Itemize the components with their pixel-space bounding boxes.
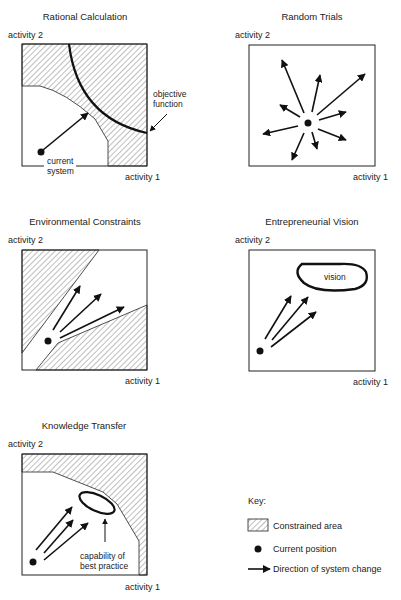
direction-arrow [312,132,317,149]
panel-rational-calculation: Rational Calculation activity 2 current … [8,11,187,182]
x-axis-label: activity 1 [353,377,388,387]
direction-arrow [318,129,346,140]
direction-arrow [60,294,101,332]
best-practice-label: capability of [80,551,126,561]
panel-frame [249,250,375,371]
legend-label-constrained: Constrained area [273,521,342,531]
current-system-label: current [47,156,74,166]
panel-title: Knowledge Transfer [42,420,127,431]
objective-function-label: objective [153,89,187,99]
vision-label: vision [324,272,346,282]
current-position-dot [38,149,45,156]
direction-arrow [43,113,88,150]
y-axis-label: activity 2 [235,235,270,245]
panel-entrepreneurial-vision: Entrepreneurial Vision activity 2 vision… [235,216,388,387]
direction-arrow [280,105,300,117]
pointer-arrow [150,114,167,131]
constrained-area [22,44,147,166]
objective-function-label-2: function [153,99,183,109]
random-arrows [263,60,365,160]
panel-title: Entrepreneurial Vision [265,216,358,227]
legend-hatched-swatch [248,519,268,531]
panel-title: Rational Calculation [43,11,128,22]
panel-frame [249,45,375,166]
current-position-dot [30,559,37,566]
direction-arrow [312,75,320,112]
legend-title: Key: [248,496,266,506]
legend-dot-swatch [255,546,262,553]
x-axis-label: activity 1 [125,172,160,182]
panel-title: Random Trials [281,11,342,22]
x-axis-label: activity 1 [125,376,160,386]
direction-arrow [282,60,304,113]
panel-title: Environmental Constraints [29,216,141,227]
current-position-dot [45,338,52,345]
y-axis-label: activity 2 [8,30,43,40]
legend-label-direction: Direction of system change [273,564,382,574]
diagram-canvas: Rational Calculation activity 2 current … [0,0,401,600]
direction-arrow [263,126,298,134]
x-axis-label: activity 1 [125,582,160,592]
current-position-dot [305,120,312,127]
x-axis-label: activity 1 [353,172,388,182]
y-axis-label: activity 2 [235,30,270,40]
y-axis-label: activity 2 [8,439,43,449]
current-position-dot [257,348,264,355]
direction-arrow [36,507,72,550]
legend-label-position: Current position [273,544,337,554]
current-system-label: system [47,166,74,176]
y-axis-label: activity 2 [8,235,43,245]
best-practice-label: best practice [80,561,128,571]
direction-arrow [292,133,304,160]
constrained-area-lower [36,305,147,370]
direction-arrow [317,74,365,115]
panel-random-trials: Random Trials activity 2 activity 1 [235,11,388,182]
direction-arrow [319,112,346,120]
panel-knowledge-transfer: Knowledge Transfer activity 2 capability… [8,420,160,592]
panel-environmental-constraints: Environmental Constraints activity 2 act… [8,216,160,386]
legend: Key: Constrained area Current position D… [248,496,382,574]
